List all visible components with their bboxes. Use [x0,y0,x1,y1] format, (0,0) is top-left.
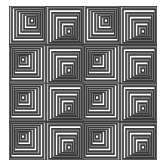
pattern-tile [83,122,120,161]
pattern-tile [83,45,120,84]
log-cabin-pattern-grid [9,6,157,160]
pattern-tile [83,83,120,122]
pattern-tile [120,45,157,84]
pattern-tile [120,122,157,161]
pattern-tile [46,83,83,122]
pattern-tile [83,6,120,45]
pattern-tile [46,45,83,84]
pattern-tile [9,45,46,84]
pattern-tile [120,83,157,122]
pattern-tile [46,122,83,161]
pattern-tile [9,6,46,45]
pattern-tile [46,6,83,45]
pattern-tile [9,83,46,122]
pattern-tile [120,6,157,45]
pattern-tile [9,122,46,161]
